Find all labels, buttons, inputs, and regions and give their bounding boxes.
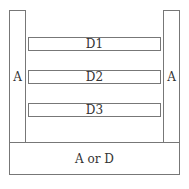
- bar-d3: D3: [28, 103, 161, 117]
- bar-d3-label: D3: [86, 104, 103, 116]
- bar-d1-label: D1: [86, 38, 103, 50]
- base-block-label: A or D: [75, 153, 114, 165]
- bar-d2-label: D2: [86, 71, 103, 83]
- right-column: A: [163, 10, 180, 143]
- left-column: A: [9, 10, 26, 143]
- base-block: A or D: [9, 142, 180, 175]
- right-column-label: A: [167, 71, 176, 83]
- left-column-label: A: [13, 71, 22, 83]
- bar-d2: D2: [28, 70, 161, 84]
- bar-d1: D1: [28, 37, 161, 51]
